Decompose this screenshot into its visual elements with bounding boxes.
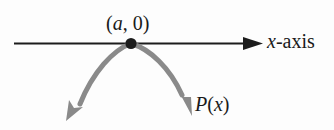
curve-arrowhead-down-right-icon [178,90,192,116]
polynomial-label-close: ) [223,93,230,115]
axis-label-text: -axis [276,30,315,52]
diagram-canvas [0,0,334,130]
parabola-left-branch [80,44,131,105]
polynomial-label: P(x) [195,94,229,114]
polynomial-label-argument: x [214,93,223,115]
polynomial-root-diagram: (a, 0) x-axis P(x) [0,0,334,130]
vertex-coordinate-label: (a, 0) [106,13,149,33]
root-point-dot [125,38,136,49]
vertex-label-variable: a [113,12,123,34]
polynomial-label-name: P [195,93,207,115]
polynomial-label-open: ( [207,93,214,115]
parabola-right-branch [131,44,182,96]
vertex-label-close: , 0) [123,12,150,34]
axis-arrowhead-right-icon [243,37,263,50]
vertex-label-open: ( [106,12,113,34]
axis-label-variable: x [267,30,276,52]
x-axis-label: x-axis [267,31,315,51]
